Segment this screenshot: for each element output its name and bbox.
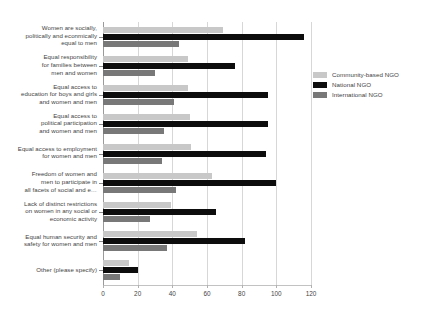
category-label-line: on women in any social or xyxy=(0,207,97,215)
legend-label: International NGO xyxy=(332,91,383,98)
category-label-line: for women and men xyxy=(0,152,97,160)
category-label-line: education for boys and girls xyxy=(0,90,97,98)
x-tick-label-120: 120 xyxy=(306,290,317,297)
bar-2-1 xyxy=(103,70,155,76)
category-label-line: all facets of social and e… xyxy=(0,186,97,194)
category-label-line: Equal human security and xyxy=(0,233,97,241)
bar-group xyxy=(103,260,311,280)
category-label-line: Freedom of women and xyxy=(0,170,97,178)
category-label-line: economic activity xyxy=(0,215,97,223)
y-tick-mark-8 xyxy=(99,270,103,271)
category-label-line: Other (please specify) xyxy=(0,266,97,274)
bar-group xyxy=(103,56,311,76)
category-label-5: Freedom of women andmen to participate i… xyxy=(0,170,97,193)
y-tick-mark-6 xyxy=(99,212,103,213)
bar-2-2 xyxy=(103,99,174,105)
bar-1-4 xyxy=(103,151,266,157)
category-label-6: Lack of distinct restrictionson women in… xyxy=(0,200,97,223)
category-label-2: Equal access toeducation for boys and gi… xyxy=(0,83,97,106)
x-tick-mark-100 xyxy=(276,285,277,288)
legend-swatch-icon xyxy=(313,72,327,78)
bar-group xyxy=(103,144,311,164)
bar-2-0 xyxy=(103,41,179,47)
category-label-line: Equal access to employment xyxy=(0,145,97,153)
legend-item-0[interactable]: Community-based NGO xyxy=(313,70,399,79)
x-tick-label-20: 20 xyxy=(134,290,141,297)
bar-1-5 xyxy=(103,180,276,186)
bar-2-5 xyxy=(103,187,176,193)
bar-group xyxy=(103,85,311,105)
bar-2-3 xyxy=(103,128,164,134)
bar-0-7 xyxy=(103,231,197,237)
category-label-4: Equal access to employmentfor women and … xyxy=(0,145,97,160)
bar-1-0 xyxy=(103,34,304,40)
bar-2-4 xyxy=(103,158,162,164)
category-label-7: Equal human security andsafety for women… xyxy=(0,233,97,248)
x-tick-label-100: 100 xyxy=(271,290,282,297)
x-tick-label-0: 0 xyxy=(101,290,105,297)
bar-group xyxy=(103,27,311,47)
category-label-line: and women and men xyxy=(0,98,97,106)
category-label-line: political participation xyxy=(0,119,97,127)
category-label-3: Equal access topolitical participationan… xyxy=(0,112,97,135)
bar-chart: 020406080100120 Women are socially,polit… xyxy=(0,0,422,323)
category-label-line: Lack of distinct restrictions xyxy=(0,200,97,208)
x-tick-label-40: 40 xyxy=(169,290,176,297)
legend-swatch-icon xyxy=(313,82,327,88)
chart-title-fragment xyxy=(8,0,228,4)
category-label-line: and women and men xyxy=(0,127,97,135)
legend-label: Community-based NGO xyxy=(332,71,399,78)
x-tick-label-80: 80 xyxy=(238,290,245,297)
bar-1-8 xyxy=(103,267,138,273)
y-tick-mark-5 xyxy=(99,183,103,184)
bar-0-3 xyxy=(103,114,190,120)
category-label-8: Other (please specify) xyxy=(0,266,97,274)
x-tick-mark-40 xyxy=(172,285,173,288)
bar-1-7 xyxy=(103,238,245,244)
category-label-line: for families between xyxy=(0,61,97,69)
bar-0-4 xyxy=(103,144,191,150)
category-label-line: equal to men xyxy=(0,39,97,47)
legend-item-2[interactable]: International NGO xyxy=(313,90,399,99)
bar-2-8 xyxy=(103,274,120,280)
bar-group xyxy=(103,173,311,193)
legend-item-1[interactable]: National NGO xyxy=(313,80,399,89)
y-tick-mark-2 xyxy=(99,95,103,96)
bar-1-2 xyxy=(103,92,268,98)
bar-2-7 xyxy=(103,245,167,251)
y-tick-mark-3 xyxy=(99,124,103,125)
category-label-0: Women are socially,politically and econm… xyxy=(0,24,97,47)
category-label-line: men to participate in xyxy=(0,178,97,186)
chart-legend: Community-based NGONational NGOInternati… xyxy=(313,70,399,100)
x-tick-mark-0 xyxy=(103,285,104,288)
category-label-line: men and women xyxy=(0,69,97,77)
y-tick-mark-0 xyxy=(99,37,103,38)
bar-group xyxy=(103,231,311,251)
bar-2-6 xyxy=(103,216,150,222)
x-tick-mark-80 xyxy=(242,285,243,288)
legend-swatch-icon xyxy=(313,92,327,98)
y-tick-mark-1 xyxy=(99,66,103,67)
category-label-line: politically and econmically xyxy=(0,32,97,40)
x-tick-mark-120 xyxy=(311,285,312,288)
bar-1-6 xyxy=(103,209,216,215)
x-tick-mark-60 xyxy=(207,285,208,288)
bar-0-5 xyxy=(103,173,212,179)
bar-0-1 xyxy=(103,56,188,62)
bar-0-0 xyxy=(103,27,223,33)
legend-label: National NGO xyxy=(332,81,371,88)
bar-1-1 xyxy=(103,63,235,69)
x-tick-label-60: 60 xyxy=(203,290,210,297)
category-label-1: Equal responsibilityfor families between… xyxy=(0,53,97,76)
bar-group xyxy=(103,202,311,222)
category-label-line: Equal access to xyxy=(0,83,97,91)
bar-0-6 xyxy=(103,202,171,208)
grid-line-120 xyxy=(311,22,312,285)
bar-group xyxy=(103,114,311,134)
category-label-line: Women are socially, xyxy=(0,24,97,32)
bar-1-3 xyxy=(103,121,268,127)
category-label-line: Equal responsibility xyxy=(0,53,97,61)
x-tick-mark-20 xyxy=(138,285,139,288)
bar-0-8 xyxy=(103,260,129,266)
category-label-line: Equal access to xyxy=(0,112,97,120)
